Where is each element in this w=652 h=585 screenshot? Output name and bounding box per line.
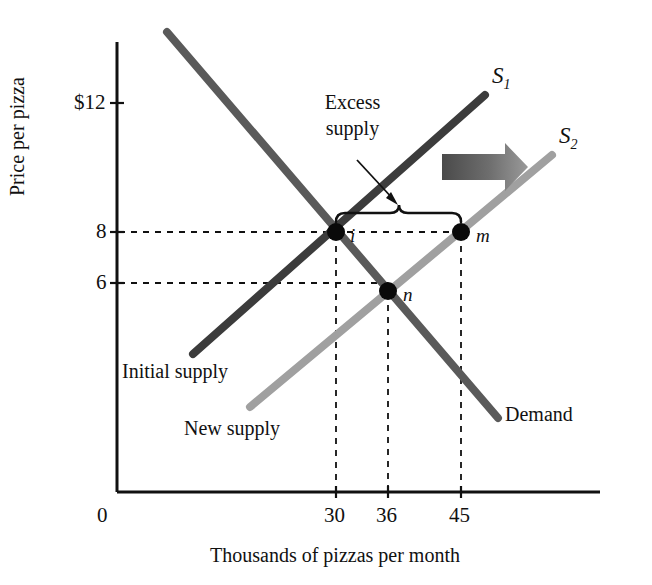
point-i-label: i	[350, 226, 355, 245]
supply-2-subscript: 2	[571, 137, 578, 152]
supply-1-letter: S	[492, 63, 504, 88]
supply-2-series-label: S2	[559, 124, 578, 152]
point-m-marker	[452, 223, 470, 241]
supply-1-series-label: S1	[492, 64, 511, 92]
point-n-marker	[379, 282, 397, 300]
excess-supply-line-1: Excess	[300, 92, 405, 112]
y-axis-title: Price per pizza	[6, 6, 29, 196]
x-axis-title: Thousands of pizzas per month	[210, 545, 460, 565]
y-tick-label-12: $12	[74, 92, 106, 113]
point-n-label: n	[403, 285, 413, 304]
supply-2-letter: S	[559, 123, 571, 148]
y-tick-label-6: 6	[96, 272, 107, 293]
x-tick-label-30: 30	[324, 505, 345, 526]
excess-supply-line-2: supply	[300, 118, 405, 138]
initial-supply-label: Initial supply	[122, 361, 228, 381]
origin-label: 0	[97, 505, 108, 526]
supply-1-subscript: 1	[504, 77, 511, 92]
new-supply-curve	[250, 155, 552, 407]
x-tick-label-45: 45	[449, 505, 470, 526]
new-supply-label: New supply	[184, 418, 280, 438]
excess-supply-annotation: Excess supply	[300, 92, 405, 138]
point-i-marker	[327, 223, 345, 241]
x-tick-label-36: 36	[376, 505, 397, 526]
demand-label: Demand	[505, 404, 573, 424]
point-m-label: m	[476, 226, 490, 245]
y-tick-label-8: 8	[96, 221, 107, 242]
